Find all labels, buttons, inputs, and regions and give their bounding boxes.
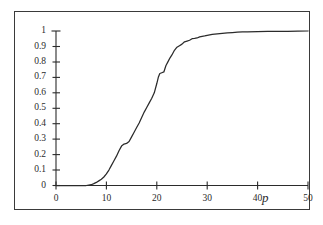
data-curve bbox=[56, 31, 308, 186]
y-tick-label-0-5: 0.5 bbox=[22, 103, 46, 113]
x-tick-label-0: 0 bbox=[44, 194, 68, 204]
y-tick-label-0-1: 0.1 bbox=[22, 165, 46, 175]
y-tick-label-0: 0 bbox=[22, 181, 46, 191]
y-tick-label-0-7: 0.7 bbox=[22, 72, 46, 82]
y-tick-label-0-3: 0.3 bbox=[22, 134, 46, 144]
figure-container: 1 0.9 0.8 0.7 0.6 0.5 0.4 0.3 0.2 0.1 0 … bbox=[0, 0, 323, 225]
x-tick-label-10: 10 bbox=[94, 194, 118, 204]
x-tick-label-20: 20 bbox=[145, 194, 169, 204]
x-tick-label-30: 30 bbox=[195, 194, 219, 204]
y-tick-label-0-9: 0.9 bbox=[22, 42, 46, 52]
x-axis-label: p bbox=[262, 191, 269, 204]
y-tick-label-0-8: 0.8 bbox=[22, 57, 46, 67]
y-tick-label-0-6: 0.6 bbox=[22, 88, 46, 98]
y-tick-label-1: 1 bbox=[22, 26, 46, 36]
x-tick-label-50: 50 bbox=[296, 194, 320, 204]
y-tick-label-0-4: 0.4 bbox=[22, 119, 46, 129]
plot-area bbox=[0, 0, 323, 225]
y-tick-label-0-2: 0.2 bbox=[22, 150, 46, 160]
